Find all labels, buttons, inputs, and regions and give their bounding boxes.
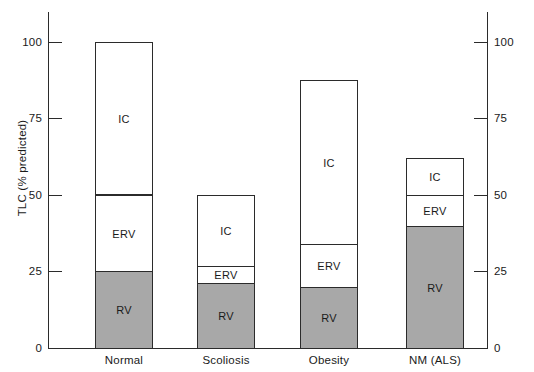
y-tick-left-25 bbox=[49, 271, 62, 272]
segment-label-ic: IC bbox=[429, 171, 441, 183]
segment-label-rv: RV bbox=[116, 304, 132, 316]
y-tick-label-right-75: 75 bbox=[494, 113, 507, 125]
y-tick-label-right-25: 25 bbox=[494, 266, 507, 278]
bar-segment-nm-als-erv: ERV bbox=[406, 195, 464, 227]
segment-label-ic: IC bbox=[323, 157, 335, 169]
bar-segment-nm-als-ic: IC bbox=[406, 158, 464, 196]
segment-label-erv: ERV bbox=[214, 269, 237, 281]
bar-segment-scoliosis-rv: RV bbox=[197, 283, 255, 349]
y-tick-left-100 bbox=[49, 42, 62, 43]
y-tick-label-left-50: 50 bbox=[29, 190, 42, 202]
y-tick-right-50 bbox=[474, 195, 487, 196]
bar-segment-obesity-ic: IC bbox=[300, 80, 358, 245]
x-category-label-scoliosis: Scoliosis bbox=[197, 354, 255, 366]
y-tick-label-right-50: 50 bbox=[494, 190, 507, 202]
y-tick-left-50 bbox=[49, 195, 62, 196]
y-tick-label-left-0: 0 bbox=[35, 343, 42, 355]
y-tick-label-left-75: 75 bbox=[29, 113, 42, 125]
y-tick-right-0 bbox=[474, 348, 487, 349]
y-tick-label-right-100: 100 bbox=[494, 37, 514, 49]
y-tick-label-left-25: 25 bbox=[29, 266, 42, 278]
segment-label-rv: RV bbox=[218, 310, 234, 322]
segment-label-rv: RV bbox=[321, 312, 337, 324]
y-tick-left-0 bbox=[49, 348, 62, 349]
segment-label-ic: IC bbox=[220, 225, 232, 237]
x-category-label-normal: Normal bbox=[95, 354, 153, 366]
segment-label-ic: IC bbox=[118, 113, 130, 125]
y-tick-left-75 bbox=[49, 118, 62, 119]
segment-label-erv: ERV bbox=[423, 205, 446, 217]
y-tick-right-100 bbox=[474, 42, 487, 43]
segment-label-erv: ERV bbox=[317, 260, 340, 272]
y-axis-right-line bbox=[487, 12, 488, 349]
bar-segment-normal-erv: ERV bbox=[95, 195, 153, 272]
bar-segment-normal-rv: RV bbox=[95, 271, 153, 349]
bar-segment-obesity-erv: ERV bbox=[300, 244, 358, 288]
segment-label-rv: RV bbox=[427, 282, 443, 294]
y-axis-left-line bbox=[48, 12, 49, 349]
x-category-label-nm-als: NM (ALS) bbox=[406, 354, 464, 366]
bar-segment-scoliosis-ic: IC bbox=[197, 195, 255, 267]
x-category-label-obesity: Obesity bbox=[300, 354, 358, 366]
segment-label-erv: ERV bbox=[112, 228, 135, 240]
stacked-bar-chart: TLC (% predicted) 0 25 50 75 100 0 25 50… bbox=[0, 0, 534, 372]
bar-segment-obesity-rv: RV bbox=[300, 287, 358, 349]
bar-segment-nm-als-rv: RV bbox=[406, 226, 464, 349]
y-tick-right-75 bbox=[474, 118, 487, 119]
y-axis-title: TLC (% predicted) bbox=[16, 88, 28, 248]
y-tick-label-right-0: 0 bbox=[494, 343, 501, 355]
bar-segment-normal-ic: IC bbox=[95, 42, 153, 195]
y-tick-right-25 bbox=[474, 271, 487, 272]
y-tick-label-left-100: 100 bbox=[22, 37, 42, 49]
bar-segment-scoliosis-erv: ERV bbox=[197, 266, 255, 284]
